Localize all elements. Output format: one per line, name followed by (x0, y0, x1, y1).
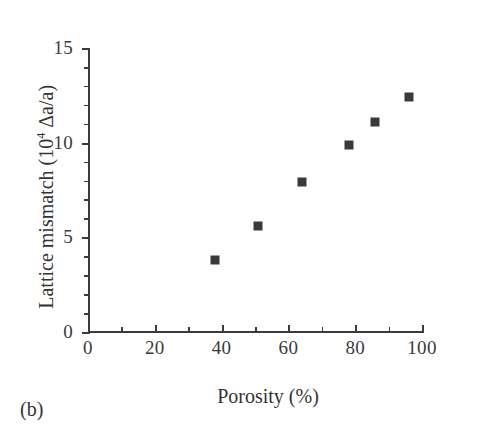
y-axis-label-exponent: 4 (34, 133, 48, 139)
y-tick-label: 5 (63, 226, 73, 248)
x-axis-label: Porosity (%) (0, 385, 496, 408)
y-axis-label-suffix: Δa/a) (35, 85, 57, 133)
data-point (254, 221, 263, 230)
x-tick-label: 80 (345, 337, 365, 359)
x-tick (422, 325, 424, 333)
data-point (404, 93, 413, 102)
y-tick-label: 0 (63, 321, 73, 343)
data-point (371, 117, 380, 126)
x-tick-label: 60 (279, 337, 299, 359)
y-axis-label: Lattice mismatch (104 Δa/a) (34, 47, 58, 347)
plot-area (88, 48, 422, 332)
panel-label: (b) (20, 398, 43, 421)
x-tick-label: 100 (407, 337, 436, 359)
data-point (344, 140, 353, 149)
x-tick-label: 0 (83, 337, 93, 359)
figure-panel-b: 051015 020406080100 Lattice mismatch (10… (0, 0, 496, 440)
x-tick-label: 40 (212, 337, 232, 359)
x-axis-label-text: Porosity (%) (217, 385, 319, 407)
x-tick-label: 20 (145, 337, 165, 359)
y-axis-label-prefix: Lattice mismatch (10 (35, 139, 57, 309)
data-point (210, 256, 219, 265)
data-point (297, 178, 306, 187)
